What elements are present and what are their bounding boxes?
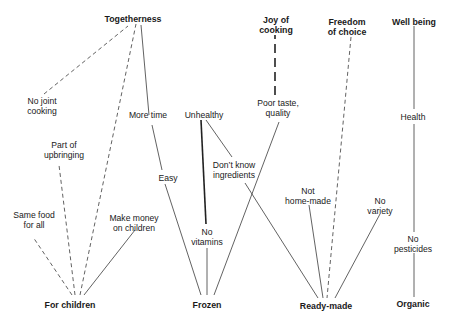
node-label: home-made: [285, 196, 331, 206]
node-same-food-for-all: Same foodfor all: [13, 210, 55, 230]
link-unhealthy-dontknow: [206, 120, 232, 157]
node-label: on children: [113, 223, 155, 233]
node-part-of-upbringing: Part ofupbringing: [44, 140, 84, 160]
node-label: cooking: [27, 106, 57, 116]
node-label: Unhealthy: [185, 110, 224, 120]
link-forchildren-togetherness: [80, 24, 136, 295]
node-label: of choice: [328, 27, 367, 37]
node-label: Same food: [13, 210, 55, 220]
link-poortaste-frozen: [214, 122, 279, 295]
node-label: Well being: [392, 17, 436, 27]
node-poor-taste-quality: Poor taste,quality: [257, 98, 299, 118]
node-make-money-on-children: Make moneyon children: [109, 213, 158, 233]
node-not-home-made: Nothome-made: [285, 186, 331, 206]
node-well-being: Well being: [392, 17, 436, 27]
node-label: Ready-made: [300, 301, 352, 311]
node-dont-know-ingredients: Don’t knowingredients: [213, 160, 256, 180]
node-label: vitamins: [191, 237, 223, 247]
node-label: For children: [45, 300, 96, 310]
node-label: Frozen: [193, 300, 222, 310]
node-label: Poor taste,: [257, 98, 299, 108]
node-unhealthy: Unhealthy: [185, 110, 224, 120]
link-forchildren-upbringing: [59, 165, 75, 295]
link-novariety-readymade: [335, 214, 380, 298]
node-no-joint-cooking: No jointcooking: [27, 96, 57, 116]
node-label: quality: [266, 108, 291, 118]
node-label: Health: [401, 112, 426, 122]
node-label: Togetherness: [104, 14, 161, 24]
node-frozen: Frozen: [193, 300, 222, 310]
link-freedom-readymade: [327, 37, 351, 298]
node-label: pesticides: [394, 244, 432, 254]
link-moretime-togetherness: [141, 25, 149, 115]
node-no-pesticides: Nopesticides: [394, 234, 432, 254]
node-label: Easy: [158, 173, 177, 183]
node-label: Organic: [396, 299, 429, 309]
node-freedom-of-choice: Freedomof choice: [328, 17, 367, 37]
node-label: Joy of: [263, 15, 289, 25]
link-moretime-easy: [152, 125, 162, 170]
node-label: No: [202, 227, 213, 237]
node-no-variety: Novariety: [367, 196, 392, 216]
node-label: Freedom: [328, 17, 365, 27]
node-joy-of-cooking: Joy ofcooking: [259, 15, 293, 35]
node-label: No joint: [27, 96, 56, 106]
node-label: Not: [301, 186, 314, 196]
node-no-vitamins: Novitamins: [191, 227, 223, 247]
node-label: for all: [23, 220, 44, 230]
node-label: cooking: [259, 25, 293, 35]
node-label: Part of: [51, 140, 76, 150]
node-ready-made: Ready-made: [300, 301, 352, 311]
link-nothomemade-readymade: [309, 205, 323, 298]
link-unhealthy-novitamins: [201, 120, 206, 224]
node-label: More time: [129, 110, 167, 120]
node-more-time: More time: [129, 110, 167, 120]
node-label: Don’t know: [213, 160, 256, 170]
node-label: No: [408, 234, 419, 244]
node-label: variety: [367, 206, 392, 216]
node-label: upbringing: [44, 150, 84, 160]
node-health: Health: [401, 112, 426, 122]
node-togetherness: Togetherness: [104, 14, 161, 24]
link-forchildren-samefood: [33, 237, 72, 295]
link-nojoint-togetherness: [44, 26, 128, 94]
node-organic: Organic: [396, 299, 429, 309]
node-label: Make money: [109, 213, 158, 223]
node-label: No: [375, 196, 386, 206]
node-for-children: For children: [45, 300, 96, 310]
node-easy: Easy: [158, 173, 177, 183]
node-label: ingredients: [213, 170, 255, 180]
